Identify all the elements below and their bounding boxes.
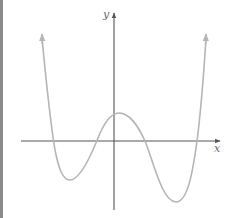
- function-curve: [42, 38, 206, 202]
- y-axis-label: y: [103, 9, 109, 20]
- x-axis-label: x: [214, 143, 220, 154]
- polynomial-graph: [0, 0, 237, 218]
